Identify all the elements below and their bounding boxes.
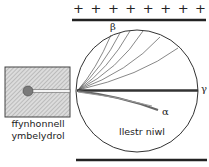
plus-sign: + bbox=[90, 2, 101, 16]
source-label-line2: ymbelydrol bbox=[0, 130, 76, 142]
chamber-label: llestr niwl bbox=[119, 126, 165, 138]
radioactive-source-block bbox=[5, 67, 70, 117]
alpha-rays bbox=[78, 91, 158, 110]
beta-rays bbox=[78, 31, 178, 90]
plus-sign: + bbox=[108, 2, 119, 16]
plus-sign: + bbox=[178, 2, 189, 16]
plus-sign: + bbox=[160, 2, 171, 16]
source-label: ffynhonnell ymbelydrol bbox=[0, 118, 76, 142]
gamma-label: γ bbox=[201, 83, 207, 95]
source-dot bbox=[23, 86, 33, 96]
beta-label: β bbox=[110, 21, 116, 33]
plus-sign: + bbox=[195, 2, 206, 16]
top-plate-charges: + + + + + + + + bbox=[73, 2, 206, 16]
plus-sign: + bbox=[143, 2, 154, 16]
alpha-label: α bbox=[162, 106, 169, 118]
plus-sign: + bbox=[73, 2, 84, 16]
source-label-line1: ffynhonnell bbox=[0, 118, 76, 130]
plus-sign: + bbox=[125, 2, 136, 16]
